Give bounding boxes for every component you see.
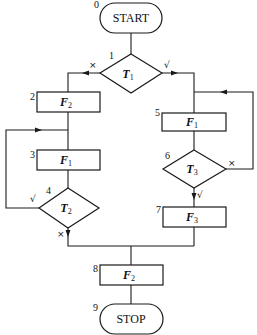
process-f1-right: F1 5 [155,107,226,131]
node-number: 0 [94,0,99,10]
true-mark: √ [164,60,170,70]
process-f1-left: F1 3 [30,149,100,170]
node-number: 6 [165,150,170,161]
node-number: 4 [46,185,51,196]
start-terminal: START 0 [94,0,162,33]
stop-label: STOP [116,312,145,326]
arrow-left-icon [82,71,89,76]
node-number: 8 [93,263,98,274]
false-mark: × [89,60,97,70]
arrow-left-icon [220,90,227,95]
false-mark: × [228,158,236,168]
arrow-right-icon [171,71,178,76]
process-f3: F3 7 [156,204,226,227]
process-f2-top: F2 2 [30,91,100,112]
node-number: 2 [30,91,35,102]
start-label: START [113,11,150,25]
node-number: 7 [156,204,161,215]
node-number: 5 [155,107,160,118]
process-f2-bottom: F2 8 [93,263,163,285]
true-mark: √ [197,190,203,200]
arrow-right-icon [35,128,42,133]
decision-t1: T1 1 × √ [89,50,170,93]
decision-t2: T2 4 √ × [30,185,99,239]
arrow-down-icon [192,193,197,200]
true-mark: √ [30,194,36,204]
false-mark: × [57,229,65,239]
arrow-down-icon [66,230,71,237]
node-number: 3 [30,149,35,160]
decision-t3: T3 6 × √ [163,150,236,200]
node-number: 1 [109,50,114,61]
stop-terminal: STOP 9 [93,302,163,334]
flowchart-canvas: START 0 T1 1 × √ F2 2 F1 3 T2 4 √ × F1 5… [0,0,257,335]
node-number: 9 [93,302,98,313]
